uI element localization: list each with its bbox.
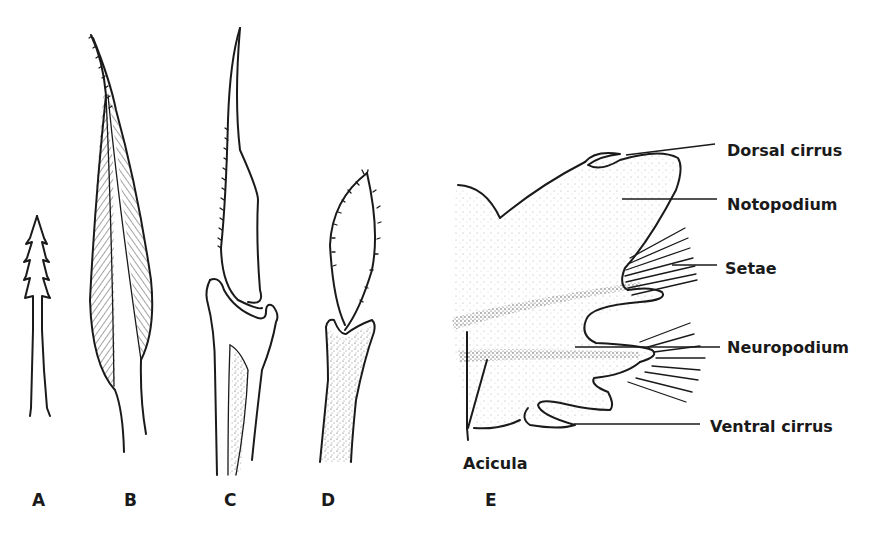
parapodium-drawing <box>452 153 705 440</box>
label-notopodium: Notopodium <box>727 195 837 214</box>
panel-label-d: D <box>321 490 335 510</box>
label-neuropodium: Neuropodium <box>727 338 849 357</box>
label-dorsal-cirrus: Dorsal cirrus <box>727 141 842 160</box>
seta-a-drawing <box>24 216 50 416</box>
polychaete-figure: Dorsal cirrus Notopodium Setae Neuropodi… <box>0 0 879 534</box>
seta-b-drawing <box>89 35 152 452</box>
panel-label-a: A <box>32 490 45 510</box>
label-setae: Setae <box>725 259 777 278</box>
panel-label-e: E <box>485 490 497 510</box>
label-ventral-cirrus: Ventral cirrus <box>710 417 833 436</box>
seta-d-drawing <box>320 170 381 462</box>
panel-label-c: C <box>224 490 236 510</box>
seta-c-drawing <box>206 28 277 475</box>
label-acicula: Acicula <box>463 454 528 473</box>
panel-label-b: B <box>124 490 137 510</box>
